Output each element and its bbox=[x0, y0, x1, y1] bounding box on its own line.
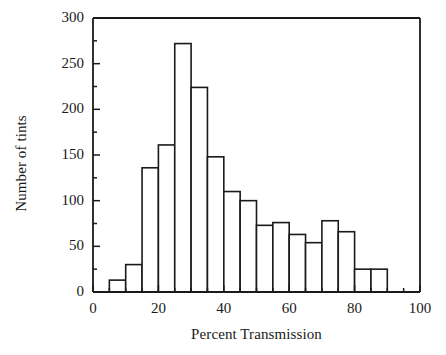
histogram-bar bbox=[126, 265, 142, 292]
histogram-bar bbox=[289, 234, 305, 292]
y-axis-label: Number of tints bbox=[13, 74, 30, 254]
y-tick-label: 250 bbox=[50, 56, 84, 71]
histogram-bar bbox=[322, 221, 338, 292]
histogram-bar bbox=[158, 145, 174, 292]
y-tick-label: 150 bbox=[50, 147, 84, 162]
histogram-bar bbox=[191, 87, 207, 292]
x-tick-label: 100 bbox=[400, 301, 440, 316]
x-tick-label: 20 bbox=[138, 301, 178, 316]
histogram-bar bbox=[306, 243, 322, 292]
histogram-bars bbox=[109, 44, 387, 292]
histogram-bar bbox=[257, 225, 273, 292]
x-tick-label: 80 bbox=[335, 301, 375, 316]
histogram-bar bbox=[207, 157, 223, 292]
histogram-bar bbox=[355, 269, 371, 292]
histogram-bar bbox=[175, 44, 191, 292]
y-tick-label: 100 bbox=[50, 193, 84, 208]
x-axis-tick-labels: 020406080100 bbox=[0, 301, 446, 321]
y-tick-label: 50 bbox=[50, 238, 84, 253]
x-tick-label: 0 bbox=[73, 301, 113, 316]
y-tick-label: 300 bbox=[50, 10, 84, 25]
histogram-bar bbox=[338, 232, 354, 292]
x-tick-label: 60 bbox=[269, 301, 309, 316]
histogram-bar bbox=[273, 223, 289, 292]
histogram-bar bbox=[371, 269, 387, 292]
histogram-bar bbox=[224, 192, 240, 292]
x-axis-label: Percent Transmission bbox=[93, 326, 420, 343]
x-tick-label: 40 bbox=[204, 301, 244, 316]
histogram-figure: Number of tints Percent Transmission 050… bbox=[0, 0, 446, 355]
y-tick-label: 200 bbox=[50, 101, 84, 116]
y-tick-label: 0 bbox=[50, 284, 84, 299]
histogram-bar bbox=[142, 168, 158, 292]
histogram-bar bbox=[240, 201, 256, 292]
histogram-bar bbox=[109, 280, 125, 292]
